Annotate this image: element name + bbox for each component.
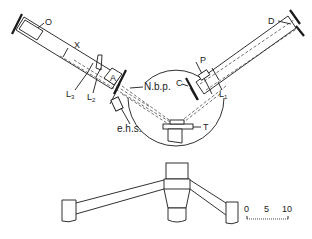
label-ehs: e.h.s.: [117, 123, 141, 134]
sample-table: [163, 124, 193, 129]
scale-bar: 0 5 10: [244, 204, 292, 219]
right-foot: [226, 202, 238, 224]
nbp-leader: [130, 87, 143, 88]
right-arm-tube: [196, 16, 296, 94]
c-leader: [182, 84, 188, 86]
right-beam-path: [200, 20, 294, 84]
right-leg-top: [190, 180, 226, 203]
scale-label-10: 10: [282, 204, 292, 214]
label-nbp: N.b.p.: [144, 81, 171, 92]
label-x: X: [74, 40, 80, 50]
l3-leader: [75, 72, 88, 90]
sample: [170, 120, 184, 124]
label-p: P: [200, 55, 206, 65]
middle-foot: [168, 208, 186, 222]
label-l2: L2: [87, 92, 96, 103]
label-c: C: [176, 78, 183, 88]
label-l1: L1: [219, 89, 228, 100]
right-end-cap-bottom: [296, 26, 304, 36]
label-o: O: [45, 17, 52, 27]
right-beam-path-2: [206, 28, 298, 90]
left-arm: [12, 14, 172, 123]
l2-leader: [93, 78, 97, 93]
stand-neck: [166, 163, 188, 179]
stand-hub: [164, 179, 190, 208]
scale-label-5: 5: [264, 204, 269, 214]
label-t: T: [203, 122, 209, 132]
goniometer-diagram: 0 5 10 O X L3 L2 A N.b.p. e.h.s. T C P L…: [0, 0, 312, 239]
table-post: [168, 129, 182, 143]
scale-label-0: 0: [244, 204, 249, 214]
right-flange: [186, 78, 198, 100]
label-l3: L3: [66, 89, 75, 100]
left-leg-bottom: [76, 189, 164, 214]
inner-beam-right-2: [180, 94, 220, 125]
label-a: A: [110, 73, 116, 83]
right-leg-bottom: [190, 189, 226, 215]
left-foot: [62, 200, 76, 222]
tripod-stand: [62, 163, 238, 224]
ehs-leader: [121, 108, 130, 124]
left-leg-top: [76, 180, 164, 203]
label-d: D: [268, 16, 275, 26]
